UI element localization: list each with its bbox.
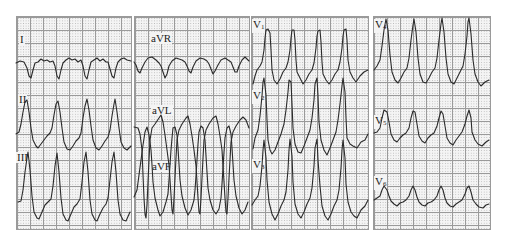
trace-lead-V1 [253, 29, 368, 84]
trace-lead-aVF [134, 126, 248, 216]
trace-lead-V4 [374, 18, 489, 86]
trace-lead-V2 [253, 78, 368, 155]
ecg-traces [0, 0, 505, 245]
trace-lead-V5 [374, 110, 489, 146]
trace-lead-aVL [134, 115, 249, 218]
trace-lead-I [16, 58, 131, 79]
trace-lead-III [18, 152, 130, 221]
trace-lead-V6 [374, 186, 489, 208]
trace-lead-V3 [252, 139, 368, 220]
trace-lead-II [16, 99, 131, 150]
trace-lead-aVR [134, 57, 249, 78]
